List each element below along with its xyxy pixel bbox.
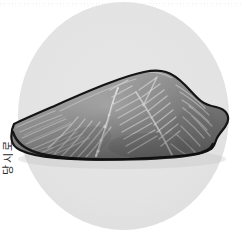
fish-fillet-svg <box>10 60 235 170</box>
page-canvas: 당시로 <box>0 0 243 238</box>
margin-caption-text: 당시로 <box>2 122 16 192</box>
fish-fillet-illustration <box>10 60 235 170</box>
